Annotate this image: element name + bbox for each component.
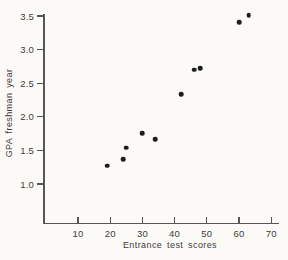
x-tick-label: 30 xyxy=(130,229,154,238)
x-tick-mark xyxy=(271,217,272,223)
x-tick-mark xyxy=(174,217,175,223)
x-tick-mark xyxy=(77,217,78,223)
x-tick-label: 50 xyxy=(195,229,219,238)
data-point xyxy=(153,137,158,142)
x-tick-label: 60 xyxy=(227,229,251,238)
x-axis-line xyxy=(43,223,279,225)
x-tick-label: 20 xyxy=(98,229,122,238)
x-axis-title: Entrance test scores xyxy=(90,240,250,250)
x-tick-mark xyxy=(142,217,143,223)
y-tick-mark xyxy=(37,83,44,84)
y-tick-label: 3.5 xyxy=(10,12,34,21)
x-tick-label: 10 xyxy=(66,229,90,238)
data-point xyxy=(105,164,110,169)
x-tick-label: 70 xyxy=(259,229,283,238)
y-tick-label: 3.0 xyxy=(10,45,34,54)
data-point xyxy=(140,131,145,136)
data-point xyxy=(198,66,203,71)
y-tick-label: 2.5 xyxy=(10,79,34,88)
x-tick-mark xyxy=(206,217,207,223)
y-tick-label: 1.5 xyxy=(10,146,34,155)
data-point xyxy=(237,20,242,25)
data-point xyxy=(192,67,197,72)
y-tick-mark xyxy=(37,116,44,117)
data-point xyxy=(246,13,251,18)
x-tick-mark xyxy=(110,217,111,223)
x-tick-label: 40 xyxy=(163,229,187,238)
y-tick-mark xyxy=(37,150,44,151)
scatter-plot-figure: GPA freshman year 1.01.52.02.53.03.5 102… xyxy=(0,0,288,260)
y-tick-label: 1.0 xyxy=(10,180,34,189)
data-point xyxy=(124,145,129,150)
y-tick-mark xyxy=(37,15,44,16)
y-tick-label: 2.0 xyxy=(10,112,34,121)
y-tick-mark xyxy=(37,183,44,184)
x-tick-mark xyxy=(238,217,239,223)
y-axis-line xyxy=(43,14,45,224)
y-tick-mark xyxy=(37,49,44,50)
data-point xyxy=(121,157,126,162)
data-point xyxy=(179,92,184,97)
